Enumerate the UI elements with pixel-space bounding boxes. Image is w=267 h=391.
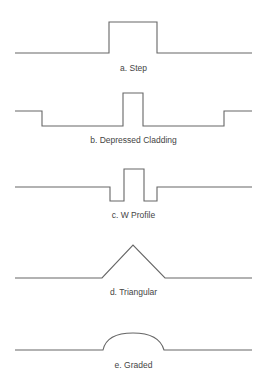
caption-triangular: d. Triangular	[0, 287, 267, 297]
caption-depressed-cladding: b. Depressed Cladding	[0, 135, 267, 145]
refractive-index-profiles	[0, 0, 267, 391]
caption-step: a. Step	[0, 63, 267, 73]
triangular-profile-line	[15, 245, 252, 278]
step-profile-line	[15, 22, 252, 53]
graded-profile-line	[15, 333, 252, 350]
w-profile-line	[15, 169, 252, 201]
caption-w-profile: c. W Profile	[0, 210, 267, 220]
depressed-cladding-profile-line	[15, 93, 252, 126]
caption-graded: e. Graded	[0, 360, 267, 370]
